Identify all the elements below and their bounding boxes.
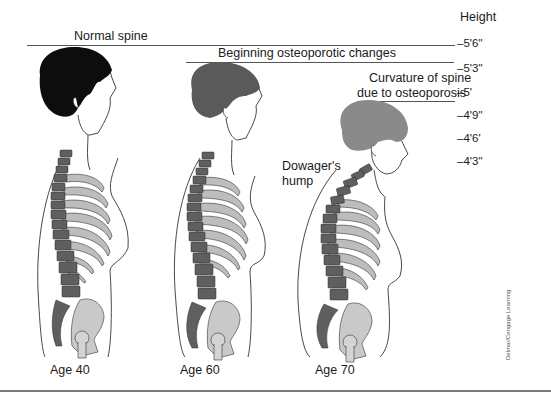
age-label-40: Age 40 xyxy=(50,364,90,377)
figure-age-70 xyxy=(0,0,551,398)
age-label-60: Age 60 xyxy=(180,364,220,377)
bottom-rule xyxy=(0,390,551,392)
image-credit: Delmar/Cengage Learning xyxy=(505,290,511,360)
age-label-70: Age 70 xyxy=(315,364,355,377)
